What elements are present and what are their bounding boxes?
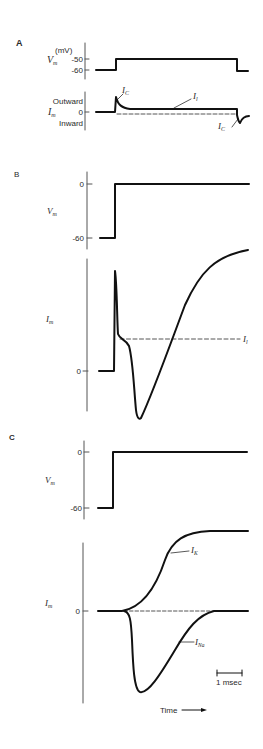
time-label: Time <box>160 706 178 715</box>
panel-a-outward: Outward <box>53 97 83 106</box>
panel-a-unit: (mV) <box>55 46 73 55</box>
panel-a-im-label: Im <box>47 106 56 118</box>
panel-a-current-trace <box>96 97 249 123</box>
panel-b-current-zero: 0 <box>77 367 82 376</box>
panel-a <box>85 43 249 130</box>
panel-a-ic-annotation: IC <box>121 85 130 96</box>
panel-a-ic2-leader <box>232 119 238 127</box>
panel-a-ic2-annotation: IC <box>217 121 226 132</box>
panel-c-ik-annotation: IK <box>190 545 198 556</box>
panel-c-tick-60: -60 <box>70 504 82 513</box>
panel-b-tick-60: -60 <box>72 234 84 243</box>
time-arrow-head-icon <box>201 708 207 712</box>
panel-b-label: B <box>14 170 19 179</box>
panel-c-ik-leader <box>171 551 189 553</box>
panel-c <box>83 441 248 712</box>
panel-a-tick-60: -60 <box>71 66 83 75</box>
scale-bar <box>217 670 242 676</box>
panel-b-il-annotation: Il <box>242 334 248 345</box>
panel-b <box>83 172 249 419</box>
panel-b-voltage-trace <box>100 184 249 238</box>
panel-c-voltage-trace <box>98 452 247 508</box>
panel-c-label: C <box>9 433 15 442</box>
panel-a-voltage-trace <box>96 59 248 71</box>
panel-c-vm-label: Vm <box>45 475 56 486</box>
panel-c-im-label: Im <box>44 598 53 609</box>
panel-a-tick-50: -50 <box>71 55 83 64</box>
panel-c-ik-trace <box>98 531 248 611</box>
panel-a-vm-label: Vm <box>47 54 58 66</box>
panel-a-il-annotation: Il <box>192 91 198 102</box>
panel-c-ina-annotation: INa <box>194 637 205 648</box>
panel-c-tick-0: 0 <box>78 448 83 457</box>
panel-b-current-trace <box>99 250 248 419</box>
panel-a-inward: Inward <box>59 119 83 128</box>
panel-a-label: A <box>16 38 23 48</box>
voltage-clamp-figure: A (mV) Vm -50 -60 Outward Im 0 Inward IC… <box>0 0 263 749</box>
panel-c-current-zero: 0 <box>76 607 81 616</box>
panel-b-vm-label: Vm <box>47 206 58 217</box>
panel-b-tick-0: 0 <box>80 180 85 189</box>
panel-a-il-leader <box>174 99 191 108</box>
panel-a-zero: 0 <box>79 108 84 117</box>
scale-bar-label: 1 msec <box>216 678 242 687</box>
panel-b-im-label: Im <box>45 314 54 325</box>
